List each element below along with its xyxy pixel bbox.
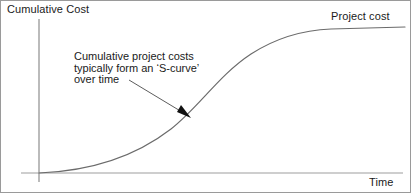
annotation-arrowhead (177, 105, 191, 118)
annotation-text-block: Cumulative project costs typically form … (74, 51, 199, 86)
x-axis-title: Time (369, 177, 393, 188)
series-label-project-cost: Project cost (331, 11, 390, 22)
plot-area (1, 1, 411, 193)
annotation-line-1: Cumulative project costs (74, 51, 199, 63)
annotation-line-3: over time (74, 74, 199, 86)
figure-container: Cumulative Cost Time Project cost Cumula… (0, 0, 411, 193)
y-axis-title: Cumulative Cost (7, 4, 89, 15)
s-curve-path (39, 27, 405, 173)
